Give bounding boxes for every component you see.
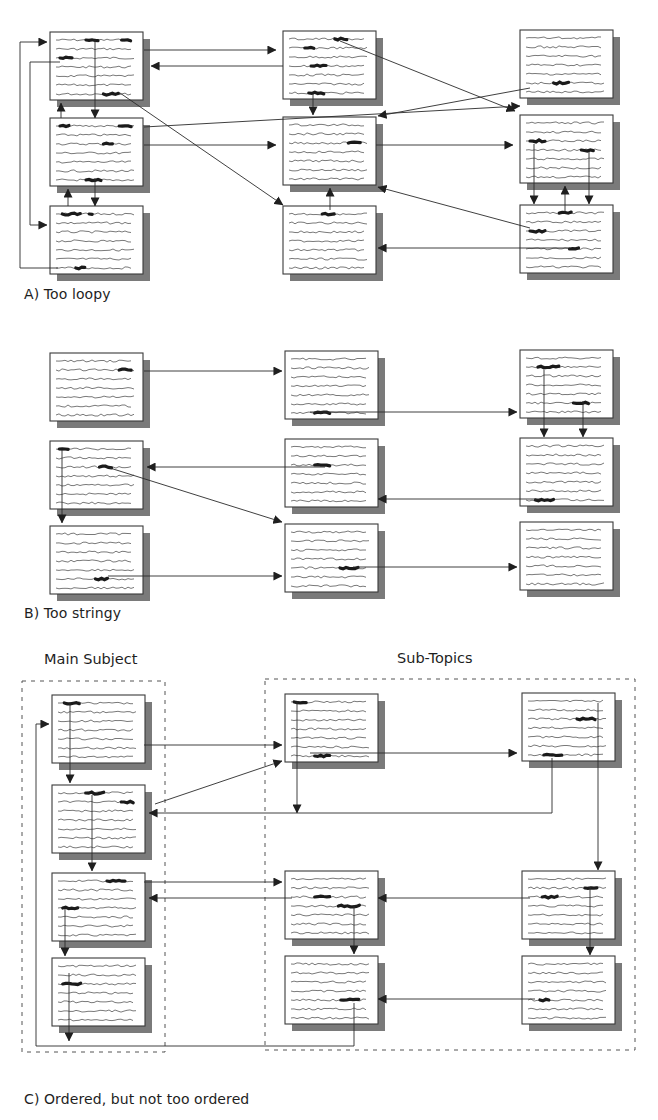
link-anchor-highlight [294, 702, 306, 703]
link-anchor-highlight [315, 755, 330, 757]
caption-ordered: C) Ordered, but not too ordered [24, 1091, 249, 1107]
link-anchor-highlight [63, 983, 81, 984]
page-thumbnail [285, 871, 385, 946]
page-thumbnail [520, 30, 620, 105]
link-anchor-highlight [60, 126, 69, 127]
link-anchor-highlight [100, 466, 112, 468]
page-frame [52, 695, 145, 763]
page-thumbnail [520, 350, 620, 425]
link-anchor-highlight [530, 140, 545, 142]
link-anchor-highlight [59, 449, 68, 450]
link-anchor-highlight [348, 142, 360, 143]
link-anchor-highlight [305, 47, 314, 48]
page-frame [285, 956, 378, 1024]
link-arrow [378, 88, 530, 116]
link-anchor-highlight [63, 907, 78, 908]
link-anchor-highlight [341, 999, 359, 1000]
page-thumbnail [50, 118, 150, 193]
page-thumbnail [50, 441, 150, 516]
link-anchor-highlight [340, 567, 358, 569]
page-thumbnail [285, 956, 385, 1031]
page-thumbnail [520, 522, 620, 597]
link-anchor-highlight [538, 366, 559, 368]
caption-too-loopy: A) Too loopy [24, 286, 111, 302]
page-frame [285, 439, 378, 507]
link-anchor-highlight [119, 126, 131, 127]
page-thumbnail [522, 871, 622, 946]
group-title-main-subject: Main Subject [44, 651, 137, 667]
page-frame [520, 30, 613, 98]
page-frame [285, 351, 378, 419]
page-thumbnail [285, 524, 385, 599]
page-thumbnail [520, 205, 620, 280]
page-thumbnail [52, 695, 152, 770]
page-thumbnail [522, 956, 622, 1031]
link-anchor-highlight [338, 905, 359, 907]
link-arrow [155, 761, 282, 804]
page-thumbnail [50, 32, 150, 107]
link-anchor-highlight [309, 92, 324, 94]
link-anchor-highlight [530, 231, 545, 232]
page-frame [283, 31, 376, 99]
page-thumbnail [50, 526, 150, 601]
link-anchor-highlight [60, 57, 72, 58]
page-thumbnail [52, 873, 152, 948]
link-anchor-highlight [315, 896, 330, 897]
page-frame [50, 526, 143, 594]
page-thumbnail [520, 438, 620, 513]
link-anchor-highlight [96, 578, 108, 580]
link-anchor-highlight [570, 248, 579, 249]
link-anchor-highlight [315, 465, 330, 466]
page-thumbnail [285, 351, 385, 426]
page-thumbnail [522, 693, 622, 768]
link-anchor-highlight [64, 703, 79, 704]
link-anchor-highlight [573, 402, 588, 403]
link-anchor-highlight [577, 718, 595, 720]
diagram-canvas [0, 0, 658, 1120]
link-anchor-highlight [581, 150, 593, 151]
link-anchor-highlight [86, 179, 101, 180]
page-frame [52, 958, 145, 1026]
page-frame [285, 871, 378, 939]
page-frame [520, 205, 613, 273]
caption-too-stringy: B) Too stringy [24, 605, 121, 621]
page-thumbnail [50, 353, 150, 428]
link-anchor-highlight [544, 754, 562, 755]
page-thumbnail [283, 206, 383, 281]
link-arrow [378, 187, 530, 228]
page-thumbnail [52, 785, 152, 860]
link-anchor-highlight [121, 801, 133, 803]
page-thumbnail [52, 958, 152, 1033]
page-thumbnail [283, 31, 383, 106]
page-thumbnail [285, 439, 385, 514]
link-anchor-highlight [76, 267, 85, 269]
link-anchor-highlight [103, 143, 112, 144]
page-thumbnail [50, 206, 150, 281]
link-anchor-highlight [585, 888, 597, 889]
page-frame [522, 693, 615, 761]
link-anchor-highlight [335, 38, 347, 40]
link-anchor-highlight [86, 40, 98, 41]
link-anchor-highlight [311, 65, 326, 66]
link-anchor-highlight [542, 896, 557, 898]
pages-layer [50, 30, 622, 1033]
link-anchor-highlight [536, 499, 554, 500]
group-title-sub-topics: Sub-Topics [397, 650, 473, 666]
page-thumbnail [283, 117, 383, 192]
link-anchor-highlight [62, 213, 80, 215]
link-anchor-highlight [559, 212, 571, 213]
link-anchor-highlight [103, 93, 118, 95]
link-anchor-highlight [554, 82, 569, 84]
link-anchor-highlight [86, 792, 104, 794]
page-frame [520, 350, 613, 418]
page-frame [520, 522, 613, 590]
link-anchor-highlight [122, 40, 131, 41]
page-frame [50, 353, 143, 421]
link-anchor-highlight [119, 369, 131, 370]
page-frame [520, 438, 613, 506]
page-thumbnail [520, 115, 620, 190]
link-anchor-highlight [107, 880, 125, 881]
link-anchor-highlight [540, 999, 549, 1001]
page-frame [50, 441, 143, 509]
page-thumbnail [285, 694, 385, 769]
